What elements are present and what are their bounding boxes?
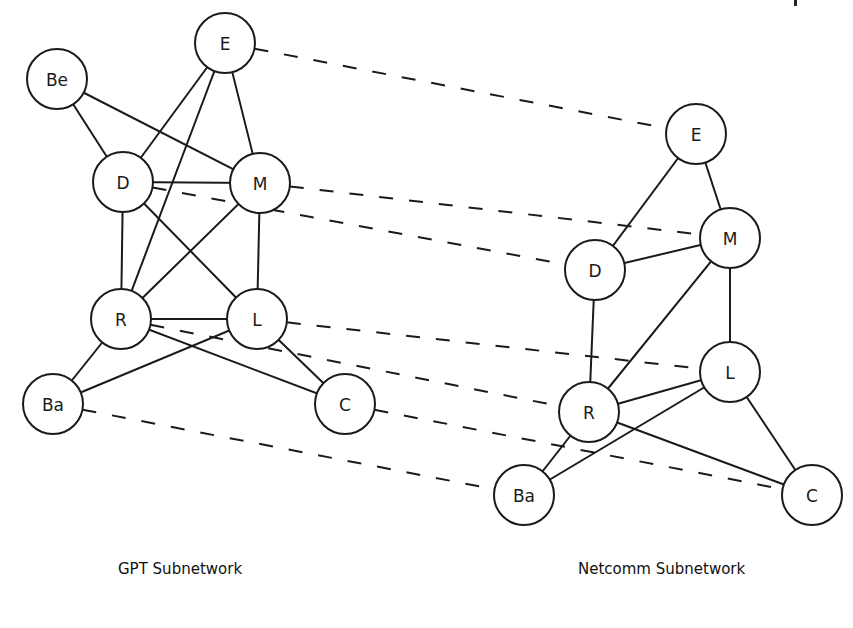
gpt-edge-Be-M (57, 79, 260, 183)
gpt-node-M: M (230, 153, 290, 213)
correspondence-M-M (260, 183, 730, 238)
netcomm-edge-L-Ba (524, 372, 730, 495)
node-label: L (252, 310, 262, 330)
node-label: Ba (513, 486, 535, 506)
netcomm-node-R: R (559, 382, 619, 442)
netcomm-node-Ba: Ba (494, 465, 554, 525)
netcomm-node-M: M (700, 208, 760, 268)
correspondence-Ba-Ba (53, 404, 524, 495)
node-label: E (220, 34, 231, 54)
netcomm-node-D: D (565, 240, 625, 300)
node-label: E (691, 125, 702, 145)
correspondence-E-E (225, 43, 696, 134)
node-label: Ba (42, 395, 64, 415)
network-alignment-diagram: EBeDMRLBaCEMDLRBaC (0, 0, 853, 628)
netcomm-node-E: E (666, 104, 726, 164)
subnetwork-nodes: EBeDMRLBaCEMDLRBaC (23, 13, 842, 525)
gpt-node-R: R (91, 289, 151, 349)
node-label: Be (46, 70, 68, 90)
node-label: D (116, 173, 129, 193)
node-label: R (115, 310, 127, 330)
gpt-node-Be: Be (27, 49, 87, 109)
node-label: C (806, 486, 818, 506)
gpt-node-D: D (93, 152, 153, 212)
node-label: D (588, 261, 601, 281)
gpt-node-E: E (195, 13, 255, 73)
cropped-glyph-fragment (794, 0, 797, 6)
netcomm-edge-R-C (589, 412, 812, 495)
node-label: L (725, 363, 735, 383)
netcomm-node-C: C (782, 465, 842, 525)
node-label: C (339, 395, 351, 415)
node-label: M (253, 174, 268, 194)
gpt-node-C: C (315, 374, 375, 434)
node-label: R (583, 403, 595, 423)
gpt-node-L: L (227, 289, 287, 349)
gpt-node-Ba: Ba (23, 374, 83, 434)
netcomm-node-L: L (700, 342, 760, 402)
netcomm-subnetwork-caption: Netcomm Subnetwork (578, 560, 745, 578)
node-label: M (723, 229, 738, 249)
gpt-subnetwork-caption: GPT Subnetwork (118, 560, 242, 578)
